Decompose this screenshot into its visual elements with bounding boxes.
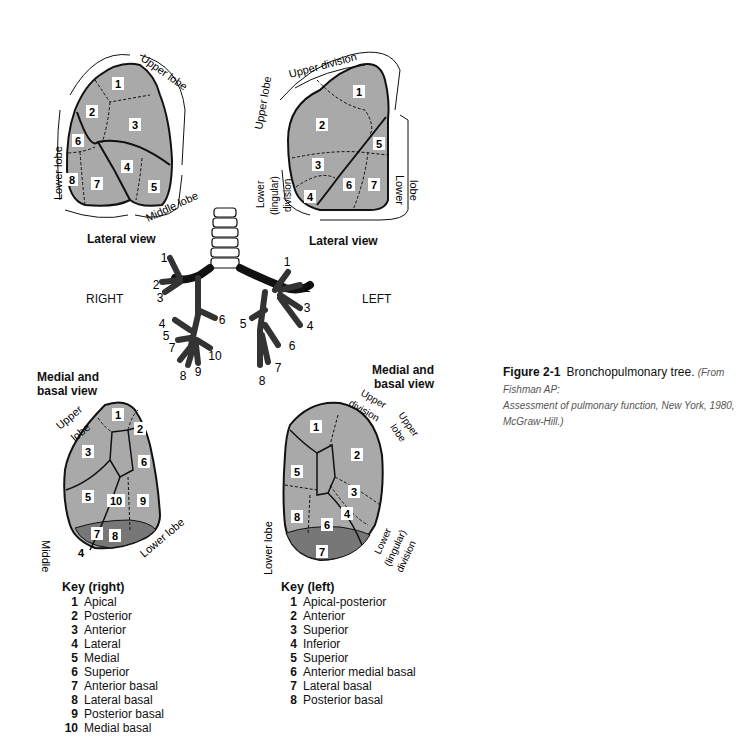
key-item: 2Anterior [281,609,416,623]
svg-text:5: 5 [85,491,91,503]
svg-text:1: 1 [115,409,121,421]
svg-text:8: 8 [112,530,118,542]
svg-text:5: 5 [376,138,382,150]
key-left-title: Key (left) [281,580,416,594]
right-medial-lung-diagram: 1 2 3 5 6 7 8 9 10 4 Upper lobe Middle L… [20,390,220,590]
left-side-label: LEFT [362,292,391,306]
figure-source-line2: Assessment of pulmonary function, New Yo… [503,398,743,430]
key-item: 7Anterior basal [62,679,164,693]
svg-text:4: 4 [124,161,131,173]
svg-text:Upper lobe: Upper lobe [252,75,273,130]
key-item: 6Anterior medial basal [281,665,416,679]
svg-text:8: 8 [69,174,75,186]
bronchial-tree-diagram: 123 456 78910 1234 5678 [140,200,340,400]
svg-text:8: 8 [294,511,300,523]
svg-text:5: 5 [294,466,300,478]
figure-title: Bronchopulmonary tree. [566,365,694,379]
svg-text:1: 1 [115,78,121,90]
key-right-title: Key (right) [62,580,164,594]
key-item: 4Inferior [281,637,416,651]
svg-text:6: 6 [346,179,352,191]
svg-text:1: 1 [356,86,362,98]
key-item: 1Apical-posterior [281,595,416,609]
svg-text:8: 8 [180,369,187,383]
svg-text:10: 10 [110,495,122,507]
svg-text:2: 2 [89,106,95,118]
svg-text:1: 1 [284,255,291,269]
left-medial-lung-diagram: 1 2 3 4 5 6 7 8 Upper division Upper lob… [250,385,450,585]
key-item: 8Lateral basal [62,693,164,707]
figure-caption: Figure 2-1 Bronchopulmonary tree. (From … [503,364,743,430]
svg-text:3: 3 [157,291,164,305]
key-item: 1Apical [62,595,164,609]
svg-text:Lower: Lower [394,175,406,205]
svg-text:4: 4 [78,547,85,559]
svg-text:2: 2 [137,423,143,435]
svg-text:6: 6 [324,519,330,531]
svg-text:2: 2 [319,119,325,131]
svg-text:9: 9 [140,495,146,507]
svg-text:3: 3 [85,446,91,458]
key-item: 8Posterior basal [281,693,416,707]
key-item: 7Lateral basal [281,679,416,693]
svg-text:4: 4 [344,508,351,520]
svg-text:9: 9 [195,365,202,379]
key-item: 4Lateral [62,637,164,651]
key-item: 6Superior [62,665,164,679]
svg-text:7: 7 [169,341,176,355]
svg-text:Lower lobe: Lower lobe [262,521,274,575]
key-item: 5Superior [281,651,416,665]
svg-text:10: 10 [208,349,222,363]
svg-text:3: 3 [304,301,311,315]
svg-text:3: 3 [351,486,357,498]
key-left: Key (left) 1Apical-posterior 2Anterior 3… [281,580,416,707]
svg-text:7: 7 [275,361,282,375]
right-side-label: RIGHT [86,292,123,306]
key-item: 2Posterior [62,609,164,623]
svg-text:6: 6 [219,313,226,327]
key-item: 3Superior [281,623,416,637]
svg-text:2: 2 [153,278,160,292]
svg-text:6: 6 [141,456,147,468]
svg-text:1: 1 [161,251,168,265]
svg-text:4: 4 [307,319,314,333]
figure-number: Figure 2-1 [503,365,560,379]
key-item: 5Medial [62,651,164,665]
key-item: 9Posterior basal [62,707,164,721]
svg-text:6: 6 [289,339,296,353]
key-item: 10Medial basal [62,721,164,735]
svg-text:3: 3 [315,159,321,171]
svg-text:3: 3 [132,119,138,131]
svg-text:Lower lobe: Lower lobe [52,146,64,200]
svg-text:7: 7 [371,179,377,191]
key-item: 3Anterior [62,623,164,637]
svg-text:lobe: lobe [408,180,420,201]
key-right: Key (right) 1Apical 2Posterior 3Anterior… [62,580,164,735]
svg-text:2: 2 [354,449,360,461]
svg-text:Middle: Middle [40,540,52,572]
svg-text:7: 7 [319,546,325,558]
svg-text:5: 5 [151,181,157,193]
svg-text:5: 5 [240,317,247,331]
svg-text:7: 7 [94,178,100,190]
svg-text:6: 6 [75,135,81,147]
svg-text:7: 7 [94,528,100,540]
svg-text:1: 1 [313,421,319,433]
svg-text:2: 2 [304,281,311,295]
